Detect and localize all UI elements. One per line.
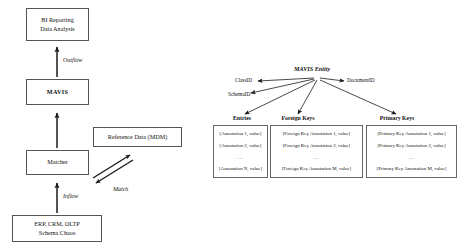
column-header-foreign-keys: Foreign Keys (265, 115, 331, 121)
entity-title: MAVIS Entity (294, 65, 330, 72)
table-row: ... (214, 155, 267, 160)
table-foreign-keys: [Foreign Key Annotation 1, value] [Forei… (270, 125, 363, 178)
node-line: Reference Data (MDM) (108, 133, 167, 141)
node-line: Schema Chaos (39, 229, 76, 237)
node-line: Data Analysis (40, 25, 75, 33)
node-bi-reporting: BI Reporting Data Analysis (26, 8, 89, 41)
node-reference-data: Reference Data (MDM) (93, 127, 182, 147)
edge-label-outflow: Outflow (63, 57, 82, 63)
table-row: [Annotation 1, value] (214, 131, 267, 136)
table-row: [Primary Key Annotation 1, value] (367, 131, 456, 136)
node-line: Matcher (47, 158, 68, 166)
table-row: [Primary Key Annotation M, value] (367, 166, 456, 171)
edge-label-inflow: Inflow (63, 193, 78, 199)
table-row: [Annotation N, value] (214, 166, 267, 171)
attribute-documentid: DocumentID (347, 77, 375, 83)
table-row: ... (271, 155, 362, 160)
attribute-classid: ClassID (235, 77, 252, 83)
column-header-primary-keys: Primary Keys (366, 115, 428, 121)
table-row: [Foreign Key Annotation M, value] (271, 166, 362, 171)
node-line: BI Reporting (41, 16, 73, 24)
diagram-canvas: Matcher (Inflow) --> BI Reporting Data A… (0, 0, 457, 248)
attribute-schemaid: SchemaID (228, 91, 250, 97)
column-header-entries: Entries (214, 115, 270, 121)
node-mavis: MAVIS (26, 79, 89, 105)
table-row: [Foreign Key Annotation 1, value] (271, 131, 362, 136)
table-row: [Primary Key Annotation 2, value] (367, 143, 456, 148)
node-line: ERP, CRM, OLTP (34, 220, 80, 228)
edge-label-match: Match (113, 186, 128, 192)
table-primary-keys: [Primary Key Annotation 1, value] [Prima… (366, 125, 457, 178)
table-entries: [Annotation 1, value] [Annotation 2, val… (213, 125, 268, 178)
node-matcher: Matcher (26, 150, 89, 175)
table-row: ... (367, 155, 456, 160)
table-row: [Annotation 2, value] (214, 143, 267, 148)
table-row: [Foreign Key Annotation 2, value] (271, 143, 362, 148)
node-line: MAVIS (47, 88, 68, 96)
node-source-systems: ERP, CRM, OLTP Schema Chaos (12, 215, 102, 242)
